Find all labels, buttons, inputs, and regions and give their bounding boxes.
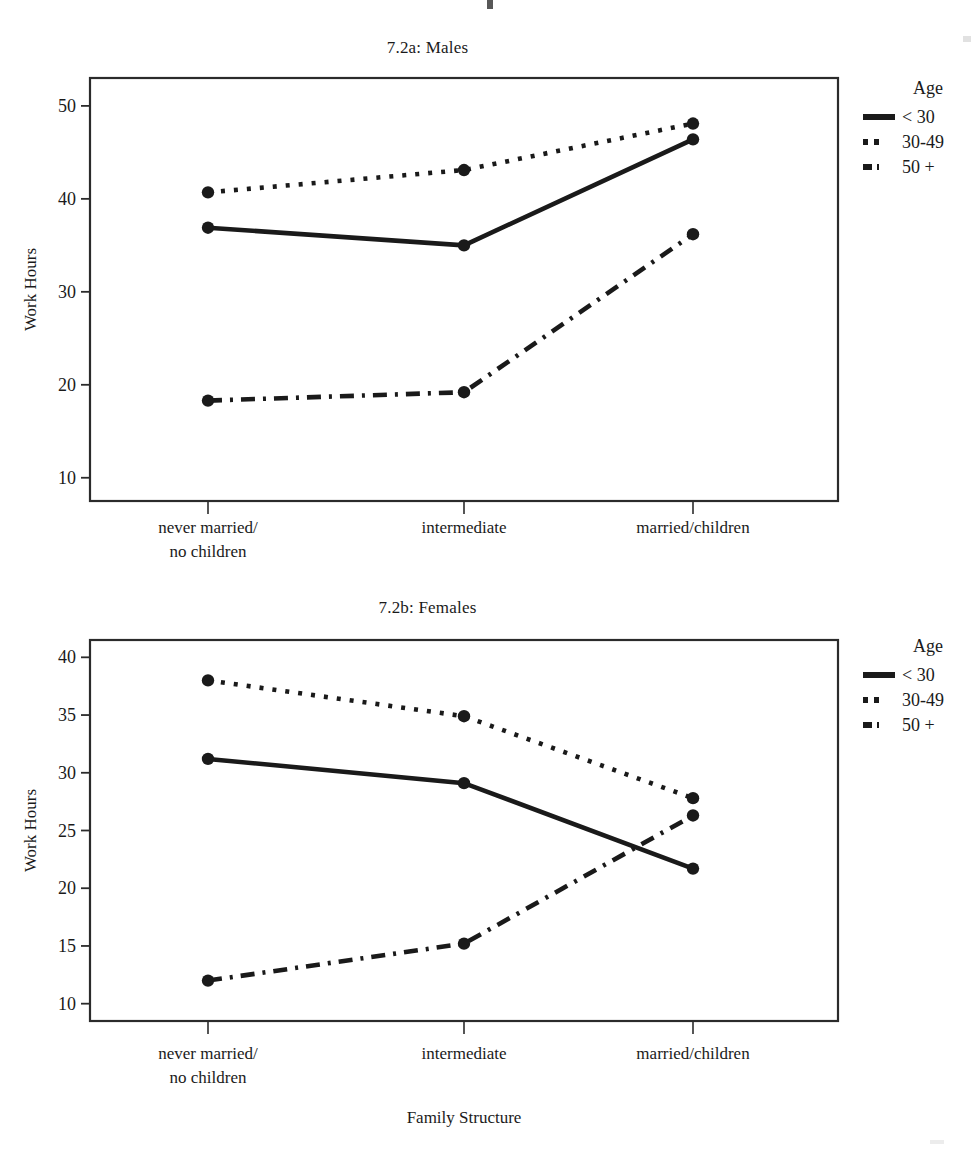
data-point-marker bbox=[202, 674, 214, 686]
y-tick-label: 25 bbox=[58, 821, 76, 841]
y-tick-label: 50 bbox=[58, 96, 76, 116]
legend-key-dashdot-icon bbox=[862, 718, 896, 732]
legend-key-dashdot-icon bbox=[862, 160, 896, 174]
legend-item-under30[interactable]: < 30 bbox=[862, 104, 979, 129]
data-point-marker bbox=[202, 221, 214, 233]
legend-item-under30[interactable]: < 30 bbox=[862, 662, 979, 687]
x-tick-label: no children bbox=[170, 1068, 247, 1087]
legend-key-solid-icon bbox=[862, 668, 896, 682]
y-tick-label: 10 bbox=[58, 468, 76, 488]
legend-title: Age bbox=[874, 636, 979, 657]
legend-males: Age < 30 30-49 bbox=[862, 78, 979, 179]
x-tick-label: never married/ bbox=[158, 518, 258, 537]
x-tick-label: never married/ bbox=[158, 1044, 258, 1063]
chart-title-males: 7.2a: Males bbox=[0, 38, 855, 58]
line-chart-females: 10152025303540never married/no childreni… bbox=[0, 618, 855, 1128]
y-tick-label: 35 bbox=[58, 705, 76, 725]
chart-title-females: 7.2b: Females bbox=[0, 598, 855, 618]
x-tick-label: married/children bbox=[636, 1044, 750, 1063]
y-tick-label: 15 bbox=[58, 936, 76, 956]
series-line bbox=[208, 759, 693, 869]
y-tick-label: 20 bbox=[58, 375, 76, 395]
plot-frame bbox=[90, 640, 838, 1021]
x-tick-label: intermediate bbox=[422, 1044, 507, 1063]
data-point-marker bbox=[458, 710, 470, 722]
x-axis-title: Family Structure bbox=[407, 1108, 522, 1127]
data-point-marker bbox=[687, 792, 699, 804]
data-point-marker bbox=[202, 753, 214, 765]
data-point-marker bbox=[687, 117, 699, 129]
y-tick-label: 10 bbox=[58, 994, 76, 1014]
y-tick-label: 40 bbox=[58, 189, 76, 209]
legend-item-30to49[interactable]: 30-49 bbox=[862, 687, 979, 712]
data-point-marker bbox=[202, 394, 214, 406]
legend-key-dotted-icon bbox=[862, 135, 896, 149]
y-tick-label: 20 bbox=[58, 878, 76, 898]
x-tick-label: no children bbox=[170, 542, 247, 558]
plot-area-females: 10152025303540never married/no childreni… bbox=[0, 618, 855, 1128]
legend-key-solid-icon bbox=[862, 110, 896, 124]
page-artifact-edge-fleck bbox=[930, 1140, 944, 1144]
series-line bbox=[208, 124, 693, 193]
legend-title: Age bbox=[874, 78, 979, 99]
y-tick-label: 40 bbox=[58, 647, 76, 667]
figure-females: 7.2b: Females 10152025303540never marrie… bbox=[0, 598, 979, 1138]
page-artifact-ink-mark bbox=[487, 0, 493, 9]
data-point-marker bbox=[687, 228, 699, 240]
legend-label-50plus: 50 + bbox=[902, 716, 935, 734]
legend-item-50plus[interactable]: 50 + bbox=[862, 712, 979, 737]
y-axis-title: Work Hours bbox=[21, 248, 40, 331]
y-tick-label: 30 bbox=[58, 282, 76, 302]
legend-label-under30: < 30 bbox=[902, 666, 935, 684]
data-point-marker bbox=[202, 974, 214, 986]
legend-label-50plus: 50 + bbox=[902, 158, 935, 176]
data-point-marker bbox=[458, 777, 470, 789]
legend-item-30to49[interactable]: 30-49 bbox=[862, 129, 979, 154]
legend-females: Age < 30 30-49 bbox=[862, 636, 979, 737]
series-line bbox=[208, 234, 693, 400]
data-point-marker bbox=[687, 809, 699, 821]
line-chart-males: 1020304050never married/no childreninter… bbox=[0, 58, 855, 558]
data-point-marker bbox=[458, 239, 470, 251]
data-point-marker bbox=[458, 937, 470, 949]
legend-label-30to49: 30-49 bbox=[902, 691, 944, 709]
legend-label-30to49: 30-49 bbox=[902, 133, 944, 151]
figure-page: 7.2a: Males 1020304050never married/no c… bbox=[0, 0, 979, 1153]
x-tick-label: married/children bbox=[636, 518, 750, 537]
y-axis-title: Work Hours bbox=[21, 789, 40, 872]
legend-key-dotted-icon bbox=[862, 693, 896, 707]
data-point-marker bbox=[687, 133, 699, 145]
series-line bbox=[208, 139, 693, 245]
plot-area-males: 1020304050never married/no childreninter… bbox=[0, 58, 855, 558]
data-point-marker bbox=[458, 164, 470, 176]
data-point-marker bbox=[458, 386, 470, 398]
y-tick-label: 30 bbox=[58, 763, 76, 783]
data-point-marker bbox=[202, 186, 214, 198]
x-tick-label: intermediate bbox=[422, 518, 507, 537]
plot-frame bbox=[90, 78, 838, 501]
legend-item-50plus[interactable]: 50 + bbox=[862, 154, 979, 179]
legend-label-under30: < 30 bbox=[902, 108, 935, 126]
data-point-marker bbox=[687, 862, 699, 874]
figure-males: 7.2a: Males 1020304050never married/no c… bbox=[0, 38, 979, 568]
